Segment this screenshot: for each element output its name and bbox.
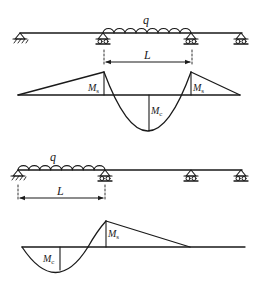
bottom-moment-diagram: Mc Ms [22,221,245,273]
roller-support-icon [98,170,112,181]
pin-support-icon [11,170,26,180]
load-label-q: q [143,13,149,27]
top-beam-system: q L [13,13,248,65]
moment-label-Ms-right: Ms [192,82,204,95]
dimension-label-L: L [143,48,151,62]
roller-support-icon [184,170,198,181]
roller-support-icon [234,33,248,44]
moment-label-Ms-left: Ms [87,82,99,95]
bottom-beam-system: q L [11,150,248,201]
dimension-label-L: L [56,184,64,198]
roller-support-icon [234,170,248,181]
roller-support-icon [96,33,110,44]
pin-support-icon [13,33,28,43]
top-moment-diagram: Ms Mc Ms [18,72,240,131]
moment-label-Ms: Ms [107,228,119,241]
moment-label-Mc: Mc [42,253,54,266]
moment-label-Mc: Mc [150,105,162,118]
load-label-q: q [50,150,56,164]
roller-support-icon [184,33,198,44]
continuous-beam-moment-figure: q L Ms Mc Ms q L [0,0,265,285]
figure-canvas: q L Ms Mc Ms q L [0,0,265,285]
